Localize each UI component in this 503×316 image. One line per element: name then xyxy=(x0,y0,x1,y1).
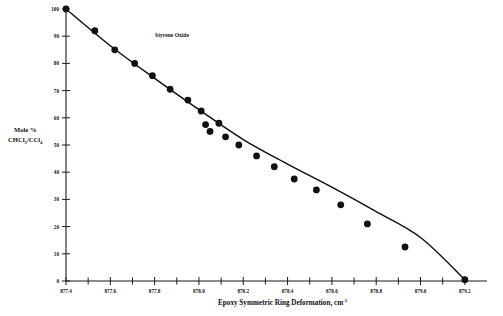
x-tick-label: 878.4 xyxy=(282,288,294,294)
y-axis-title-line1: Mole % xyxy=(14,126,37,133)
data-point xyxy=(63,6,70,13)
chart-background xyxy=(0,0,503,316)
series-annotation-label: Styrene Oxide xyxy=(155,32,189,38)
data-point xyxy=(271,163,278,170)
data-point xyxy=(215,120,222,127)
data-point xyxy=(91,27,98,34)
data-point xyxy=(461,276,468,283)
y-tick-label: 20 xyxy=(54,224,60,230)
x-tick-label: 878.8 xyxy=(370,288,382,294)
x-tick-label: 878.6 xyxy=(326,288,338,294)
data-point xyxy=(202,121,209,128)
data-point xyxy=(222,133,229,140)
x-tick-label: 877.8 xyxy=(149,288,161,294)
y-tick-label: 80 xyxy=(54,60,60,66)
data-point xyxy=(364,220,371,227)
y-tick-label: 30 xyxy=(54,196,60,202)
x-tick-label: 878.2 xyxy=(237,288,249,294)
y-tick-label: 0 xyxy=(56,278,59,284)
y-tick-label: 70 xyxy=(54,88,60,94)
data-point xyxy=(235,142,242,149)
x-axis-title: Epoxy Symmetric Ring Deformation, cm-1 xyxy=(218,298,348,307)
x-tick-label: 878.0 xyxy=(193,288,205,294)
chart-figure: 0102030405060708090100 877.4877.6877.887… xyxy=(0,0,503,316)
data-point xyxy=(167,86,174,93)
data-point xyxy=(402,244,409,251)
y-tick-label: 100 xyxy=(51,6,59,12)
y-tick-label: 10 xyxy=(54,251,60,257)
y-tick-label: 50 xyxy=(54,142,60,148)
y-axis-title-ccl4-mid: /CCl xyxy=(26,136,40,143)
x-tick-label: 877.4 xyxy=(60,288,72,294)
data-point xyxy=(207,128,214,135)
data-point xyxy=(184,97,191,104)
x-axis-title-main: Epoxy Symmetric Ring Deformation, cm xyxy=(218,299,343,307)
x-tick-label: 879.0 xyxy=(415,288,427,294)
data-point xyxy=(131,60,138,67)
x-axis-title-superscript: -1 xyxy=(343,298,348,303)
x-tick-label: 879.2 xyxy=(459,288,471,294)
data-point xyxy=(111,46,118,53)
y-tick-label: 90 xyxy=(54,33,60,39)
data-point xyxy=(253,152,260,159)
y-axis-title-chcl3-pre: CHCl xyxy=(8,136,25,143)
data-point xyxy=(313,186,320,193)
y-tick-label: 60 xyxy=(54,115,60,121)
data-point xyxy=(198,108,205,115)
data-point xyxy=(337,201,344,208)
data-point xyxy=(291,176,298,183)
y-tick-label: 40 xyxy=(54,169,60,175)
x-tick-label: 877.6 xyxy=(104,288,116,294)
data-point xyxy=(149,72,156,79)
